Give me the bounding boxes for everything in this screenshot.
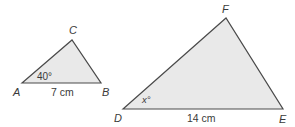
side-ab-length: 7 cm (51, 86, 74, 98)
triangle-abc: C A B 40° 7 cm (12, 24, 109, 98)
vertex-label-b: B (102, 86, 109, 98)
triangle-abc-shape (22, 40, 101, 83)
vertex-label-f: F (222, 3, 230, 15)
angle-a-label: 40° (37, 71, 52, 82)
side-de-length: 14 cm (187, 112, 216, 124)
vertex-label-d: D (114, 112, 122, 124)
vertex-label-e: E (279, 113, 287, 125)
triangle-def: F D E x° 14 cm (114, 3, 287, 125)
angle-d-label: x° (141, 94, 151, 105)
vertex-label-a: A (12, 86, 20, 98)
similar-triangles-figure: C A B 40° 7 cm F D E x° 14 cm (0, 0, 295, 127)
vertex-label-c: C (69, 24, 77, 36)
